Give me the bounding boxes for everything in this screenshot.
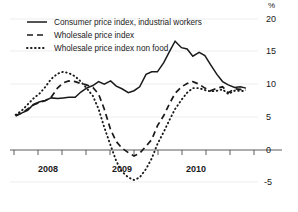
- x-axis-ticks: [14, 150, 254, 155]
- x-axis-labels: 2008 2009 2010: [38, 164, 206, 174]
- y-tick-label-20: 20: [266, 14, 276, 24]
- y-tick-label-15: 15: [266, 46, 276, 56]
- legend-label-consumer-price-index: Consumer price index, industrial workers: [54, 18, 202, 27]
- y-tick-label-minus5: -5: [264, 177, 272, 187]
- chart-container: % 20 15 10 5 0 -5 2008 2009 2010 Consume…: [0, 0, 298, 212]
- x-tick-label-2008: 2008: [38, 164, 58, 174]
- legend-label-wholesale-price-index-non-food: Wholesale price index non food: [54, 44, 169, 53]
- y-axis-unit-label: %: [268, 1, 275, 10]
- y-tick-label-5: 5: [266, 112, 271, 122]
- x-tick-label-2009: 2009: [112, 164, 132, 174]
- y-tick-label-10: 10: [266, 79, 276, 89]
- series-group: [16, 41, 246, 180]
- y-axis-labels: % 20 15 10 5 0 -5: [264, 1, 276, 187]
- legend-label-wholesale-price-index: Wholesale price index: [54, 31, 134, 40]
- line-chart: % 20 15 10 5 0 -5 2008 2009 2010 Consume…: [0, 0, 298, 212]
- x-tick-label-2010: 2010: [186, 164, 206, 174]
- y-tick-label-0: 0: [266, 145, 271, 155]
- legend: Consumer price index, industrial workers…: [27, 18, 202, 53]
